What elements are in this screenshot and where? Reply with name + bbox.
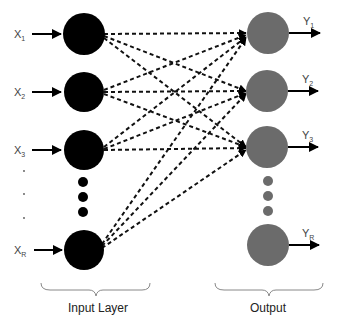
braces: [41, 283, 323, 296]
label-xR: XR: [14, 244, 26, 258]
input-layer-caption: Input Layer: [68, 301, 128, 315]
output-node-y1: [247, 12, 289, 54]
label-x2: X2: [14, 86, 25, 100]
label-y2: Y2: [302, 73, 313, 87]
edge-x1-y1: [104, 33, 246, 34]
edge-xR-y2: [102, 94, 246, 246]
output-node-y3: [246, 126, 288, 168]
output-ellipsis-dot: [263, 191, 273, 201]
input-node-x2: [64, 72, 104, 112]
neural-network-diagram: X1 X2 X3 XR Y1 Y2 Y3: [0, 0, 338, 320]
label-x1: X1: [14, 28, 25, 42]
output-ellipsis-dot: [263, 206, 273, 216]
output-ellipsis-dot: [263, 176, 273, 186]
label-x3: X3: [14, 144, 25, 158]
output-layer-caption: Output: [250, 301, 287, 315]
output-labels: Y1 Y2 Y3 YR: [302, 15, 314, 241]
input-arrows: [32, 34, 62, 250]
input-layer-brace: [41, 283, 150, 296]
label-yR: YR: [302, 227, 314, 241]
label-y1: Y1: [303, 15, 314, 29]
input-labels: X1 X2 X3 XR: [14, 28, 26, 258]
label-ellipsis: [23, 170, 25, 219]
edge-x2-y2: [104, 91, 246, 92]
input-node-x1: [63, 13, 105, 55]
output-node-y2: [246, 70, 288, 112]
input-ellipsis-dot: [78, 192, 88, 202]
input-ellipsis-dot: [78, 177, 88, 187]
edge-x3-y3: [104, 148, 246, 150]
input-ellipsis-dot: [78, 207, 88, 217]
input-layer: [63, 13, 105, 270]
connections: [102, 33, 246, 248]
input-node-xR: [64, 230, 104, 270]
input-node-x3: [64, 130, 104, 170]
output-layer: [246, 12, 289, 266]
edge-xR-y3: [102, 150, 246, 248]
output-node-yR: [247, 224, 289, 266]
output-layer-brace: [215, 283, 323, 296]
label-y3: Y3: [302, 129, 313, 143]
